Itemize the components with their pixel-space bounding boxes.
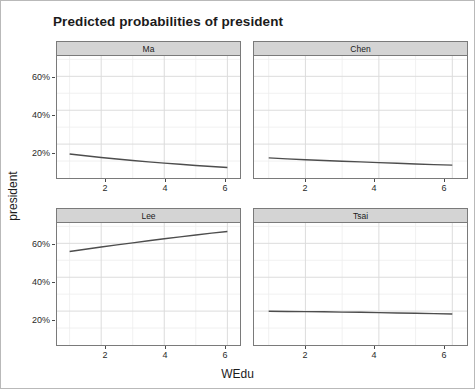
y-tick-label-bottom-40: 40% — [15, 277, 50, 287]
x-axis-title: WEdu — [1, 367, 474, 381]
panel-tsai: Tsai — [253, 208, 468, 346]
y-tick-mark-top-40 — [52, 115, 55, 116]
y-tick-mark-bottom-20 — [52, 320, 55, 321]
y-tick-mark-top-20 — [52, 153, 55, 154]
x-tick-label-ma-2: 2 — [95, 183, 115, 193]
panel-strip-tsai: Tsai — [253, 208, 468, 223]
plot-svg-ma — [57, 56, 240, 178]
x-tick-label-chen-6: 6 — [434, 183, 454, 193]
x-tick-label-lee-2: 2 — [95, 350, 115, 360]
panel-ma: Ma — [56, 41, 241, 179]
x-tick-label-lee-4: 4 — [155, 350, 175, 360]
panel-chen: Chen — [253, 41, 468, 179]
y-tick-label-top-60: 60% — [15, 72, 50, 82]
plot-svg-tsai — [254, 223, 467, 345]
data-line-chen — [269, 158, 453, 165]
x-tick-mark-tsai-2 — [305, 346, 306, 349]
panel-strip-chen: Chen — [253, 41, 468, 56]
panel-strip-label-ma: Ma — [143, 44, 155, 54]
y-tick-label-top-40: 40% — [15, 110, 50, 120]
x-tick-mark-chen-6 — [444, 179, 445, 182]
plot-area-lee — [56, 223, 241, 346]
x-tick-mark-lee-4 — [165, 346, 166, 349]
y-tick-label-top-20: 20% — [15, 148, 50, 158]
panel-lee: Lee — [56, 208, 241, 346]
x-tick-mark-tsai-4 — [374, 346, 375, 349]
x-tick-mark-chen-4 — [374, 179, 375, 182]
plot-area-chen — [253, 56, 468, 179]
x-tick-label-chen-4: 4 — [364, 183, 384, 193]
data-line-lee — [70, 231, 228, 251]
x-tick-label-tsai-4: 4 — [364, 350, 384, 360]
x-tick-label-ma-6: 6 — [215, 183, 235, 193]
x-tick-mark-ma-4 — [165, 179, 166, 182]
y-tick-label-bottom-20: 20% — [15, 315, 50, 325]
plot-area-tsai — [253, 223, 468, 346]
y-axis-title-text: president — [6, 171, 20, 220]
plot-svg-chen — [254, 56, 467, 178]
x-tick-label-chen-2: 2 — [295, 183, 315, 193]
y-tick-mark-top-60 — [52, 77, 55, 78]
chart-figure: Predicted probabilities of president pre… — [0, 0, 475, 389]
x-tick-mark-lee-2 — [105, 346, 106, 349]
panel-strip-label-chen: Chen — [350, 44, 370, 54]
page-title: Predicted probabilities of president — [53, 14, 283, 29]
x-tick-mark-lee-6 — [225, 346, 226, 349]
x-tick-mark-tsai-6 — [444, 346, 445, 349]
x-tick-label-tsai-2: 2 — [295, 350, 315, 360]
plot-svg-lee — [57, 223, 240, 345]
data-line-tsai — [269, 311, 453, 314]
panel-strip-label-tsai: Tsai — [353, 211, 368, 221]
panel-strip-ma: Ma — [56, 41, 241, 56]
y-axis-title: president — [3, 1, 23, 389]
y-tick-mark-bottom-60 — [52, 244, 55, 245]
x-tick-label-tsai-6: 6 — [434, 350, 454, 360]
x-tick-mark-ma-6 — [225, 179, 226, 182]
x-tick-mark-chen-2 — [305, 179, 306, 182]
y-tick-label-bottom-60: 60% — [15, 239, 50, 249]
x-tick-label-ma-4: 4 — [155, 183, 175, 193]
y-tick-mark-bottom-40 — [52, 282, 55, 283]
x-tick-mark-ma-2 — [105, 179, 106, 182]
panel-strip-label-lee: Lee — [141, 211, 155, 221]
panel-strip-lee: Lee — [56, 208, 241, 223]
x-tick-label-lee-6: 6 — [215, 350, 235, 360]
plot-area-ma — [56, 56, 241, 179]
